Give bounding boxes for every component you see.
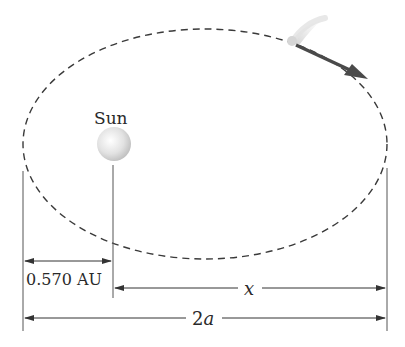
major-axis-label: 2a — [192, 308, 214, 329]
sun-icon — [97, 127, 131, 161]
x-label: x — [244, 278, 254, 299]
comet-icon — [287, 18, 325, 46]
sun-label: Sun — [94, 108, 128, 128]
perihelion-label: 0.570 AU — [26, 270, 102, 289]
velocity-arrow-icon — [296, 45, 368, 79]
orbit-diagram: Sun 0.570 AU x 2a — [0, 0, 405, 347]
